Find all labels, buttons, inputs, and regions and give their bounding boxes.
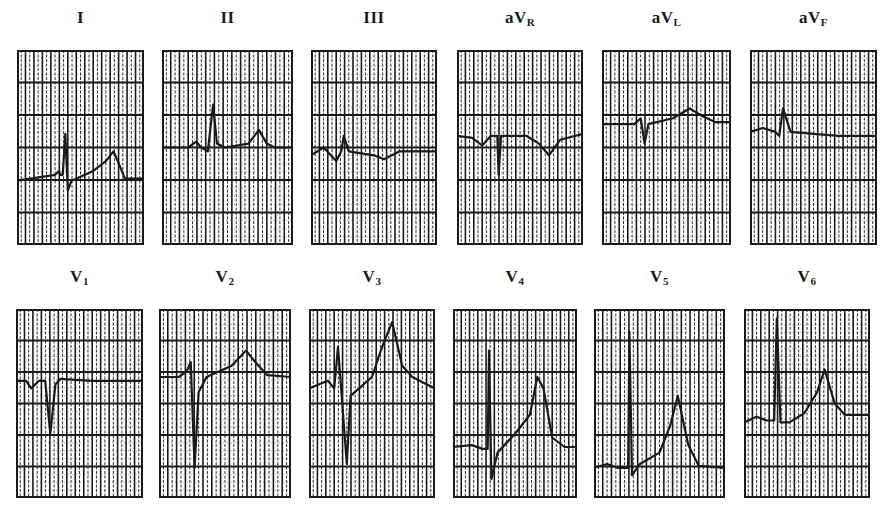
- ecg-grid-panel: [162, 50, 293, 245]
- ecg-grid-panel: [744, 309, 870, 498]
- ecg-trace: [311, 136, 437, 161]
- lead-label: V2: [159, 267, 291, 287]
- lead-label: V6: [744, 267, 870, 287]
- ecg-grid-panel: [159, 309, 291, 498]
- lead-label: V3: [309, 267, 435, 287]
- ecg-grid-panel: [594, 309, 725, 498]
- lead-label: aVR: [457, 8, 583, 28]
- ecg-grid-panel: [453, 309, 577, 498]
- ecg-grid-panel: [750, 50, 877, 245]
- lead-label: V1: [16, 267, 143, 287]
- lead-label: II: [162, 8, 293, 28]
- lead-label: aVL: [602, 8, 731, 28]
- ecg-grid-panel: [457, 50, 583, 245]
- lead-label: III: [311, 8, 437, 28]
- lead-label: V4: [453, 267, 577, 287]
- lead-label: aVF: [750, 8, 877, 28]
- lead-label: I: [17, 8, 144, 28]
- ecg-grid-panel: [17, 50, 144, 245]
- ecg-grid-panel: [311, 50, 437, 245]
- ecg-grid-panel: [309, 309, 435, 498]
- ecg-grid-panel: [16, 309, 143, 498]
- lead-label: V5: [594, 267, 725, 287]
- ecg-grid-panel: [602, 50, 731, 245]
